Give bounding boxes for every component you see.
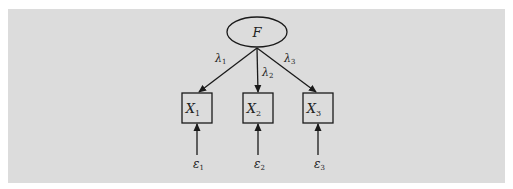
indicator-label-2: X2 [246,101,261,118]
indicator-node-1: X1 [182,93,212,123]
error-label-2: ε2 [254,157,265,172]
loading-arrow-2 [257,48,258,92]
loading-label-2: λ2 [261,66,273,80]
loading-label-3: λ3 [283,52,295,66]
factor-label: F [251,25,262,40]
factor-diagram: F λ1 λ2 λ3 X1 X2 X3 ε1 ε2 ε3 [0,0,513,189]
error-label-1: ε1 [193,157,204,172]
factor-node: F [227,17,287,47]
indicator-label-1: X1 [185,101,200,118]
error-label-3: ε3 [314,157,325,172]
error-arrows [197,124,318,155]
indicator-node-2: X2 [243,93,273,123]
indicator-label-3: X3 [306,101,321,118]
loading-label-1: λ1 [214,52,226,66]
loading-arrow-1 [199,48,257,92]
indicator-node-3: X3 [303,93,333,123]
